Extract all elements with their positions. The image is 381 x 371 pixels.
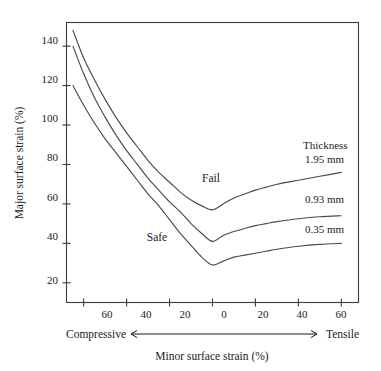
x-tick-label-pos40: 40 [297,308,309,320]
x-axis-title: Minor surface strain (%) [155,350,269,363]
data-curves [73,30,341,265]
x-tick-label-neg60: 60 [102,308,114,320]
y-tick-label-80: 80 [47,151,59,163]
safe-region-label: Safe [147,231,167,243]
series-label-093mm: 0.93 mm [305,193,345,205]
y-tick-label-40: 40 [47,230,59,242]
series-label-195mm: 1.95 mm [305,153,345,165]
x-tick-label-zero: 0 [221,308,227,320]
curve-0-93-mm [73,46,341,241]
y-tick-label-120: 120 [42,73,59,85]
y-tick-label-140: 140 [42,34,59,46]
forming-limit-diagram: 20 40 60 80 100 120 140 60 40 20 0 20 40… [0,0,381,371]
direction-arrow [131,331,317,338]
compressive-label: Compressive [66,328,126,341]
y-tick-label-20: 20 [47,274,59,286]
y-axis-title: Major surface strain (%) [13,106,26,219]
fail-region-label: Fail [202,172,220,184]
y-tick-label-100: 100 [42,112,59,124]
x-tick-label-pos60: 60 [336,308,348,320]
y-tick-label-60: 60 [47,191,59,203]
tensile-label: Tensile [326,328,359,340]
thickness-legend-title: Thickness [303,139,348,151]
x-tick-label-neg40: 40 [141,308,153,320]
series-label-035mm: 0.35 mm [305,223,345,235]
chart-canvas: 20 40 60 80 100 120 140 60 40 20 0 20 40… [0,0,381,371]
x-tick-label-pos20: 20 [258,308,270,320]
x-tick-label-neg20: 20 [180,308,192,320]
